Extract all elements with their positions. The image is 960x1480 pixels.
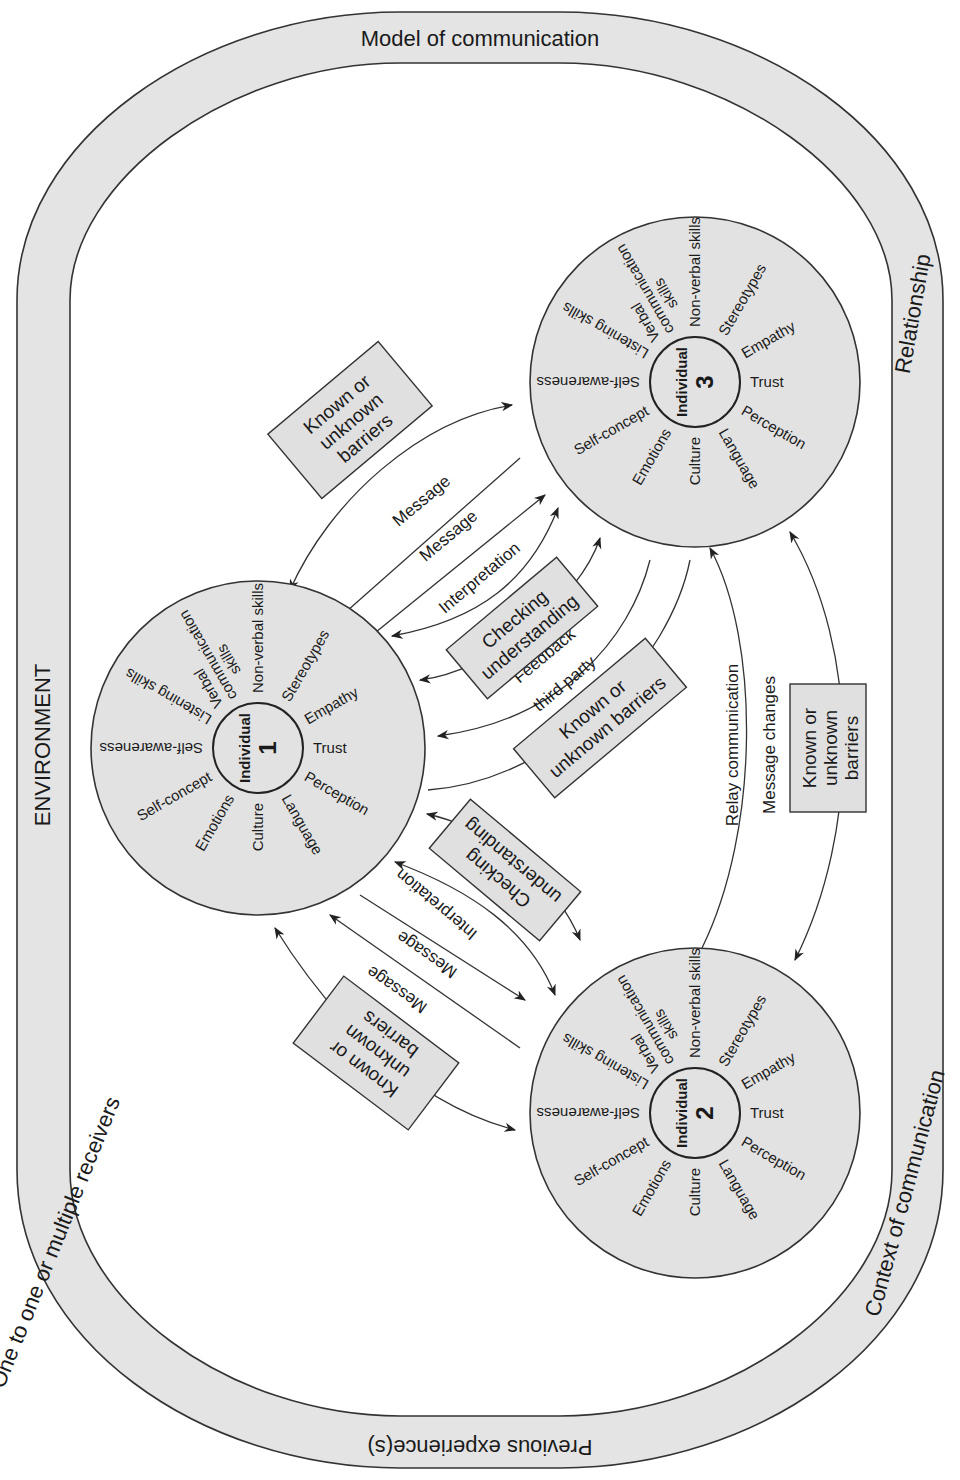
individual-1: Individual 1 Non-verbal skills Stereotyp… bbox=[91, 581, 425, 915]
individual-1-label: Individual bbox=[236, 713, 253, 783]
svg-text:unknown: unknown bbox=[820, 710, 841, 786]
spoke-non-verbal: Non-verbal skills bbox=[686, 948, 703, 1058]
individual-2-number: 2 bbox=[691, 1106, 718, 1119]
individual-1-number: 1 bbox=[254, 741, 281, 754]
individual-3-number: 3 bbox=[691, 375, 718, 388]
individual-2-label: Individual bbox=[673, 1078, 690, 1148]
spoke-self-awareness: Self-awareness bbox=[100, 740, 203, 757]
spoke-culture: Culture bbox=[249, 803, 266, 851]
spoke-trust: Trust bbox=[750, 373, 784, 390]
spoke-non-verbal: Non-verbal skills bbox=[249, 583, 266, 693]
edge-label-message-changes: Message changes bbox=[760, 676, 779, 814]
individual-3: Individual 3 Non-verbal skills Stereotyp… bbox=[530, 217, 860, 547]
ring-label-top: Model of communication bbox=[361, 26, 599, 51]
spoke-trust: Trust bbox=[750, 1104, 784, 1121]
spoke-self-awareness: Self-awareness bbox=[537, 374, 640, 391]
spoke-culture: Culture bbox=[686, 437, 703, 485]
spoke-self-awareness: Self-awareness bbox=[537, 1105, 640, 1122]
spoke-non-verbal: Non-verbal skills bbox=[686, 217, 703, 327]
edge-label-relay: Relay communication bbox=[723, 664, 742, 827]
spoke-trust: Trust bbox=[313, 739, 347, 756]
ring-label-bottom: Previous experience(s) bbox=[368, 1435, 593, 1460]
spoke-culture: Culture bbox=[686, 1168, 703, 1216]
individual-2: Individual 2 Non-verbal skills Stereotyp… bbox=[530, 948, 860, 1278]
box-barriers-2-3: Known or unknown barriers bbox=[790, 684, 866, 812]
ring-label-environment: ENVIRONMENT bbox=[30, 664, 55, 827]
individual-3-label: Individual bbox=[673, 347, 690, 417]
communication-model-diagram: Model of communication ENVIRONMENT One t… bbox=[0, 0, 960, 1480]
svg-text:Known or: Known or bbox=[799, 707, 820, 788]
svg-text:barriers: barriers bbox=[841, 716, 862, 780]
